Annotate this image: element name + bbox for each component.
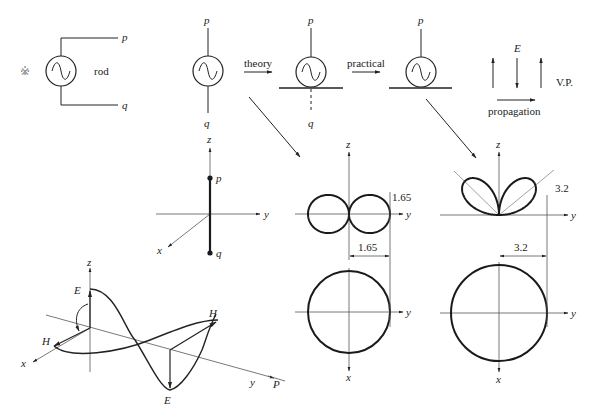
dipole-y-label: y bbox=[263, 208, 269, 220]
practical-vertical-pattern: z y 3.2 3.2 bbox=[440, 138, 576, 266]
practical-diag-right bbox=[499, 170, 554, 215]
theory-to-pattern-arrow bbox=[249, 97, 300, 157]
dipole-terminal-q: q bbox=[204, 117, 210, 129]
sine-wave-icon bbox=[52, 63, 70, 80]
wave-e-top-label: E bbox=[73, 284, 81, 296]
antenna-diagram: ※ p q rod p q theory p q practical p bbox=[0, 0, 599, 420]
em-wave-group: z y P x E H H E bbox=[20, 256, 285, 406]
rod-source-group: ※ p q rod bbox=[20, 31, 128, 111]
dipole-q-label: q bbox=[216, 247, 222, 259]
dipole-p-label: p bbox=[215, 172, 222, 184]
wave-y-label: y bbox=[249, 376, 255, 388]
practical-to-pattern-arrow bbox=[426, 99, 476, 158]
dipole-x-label: x bbox=[156, 244, 162, 256]
dipole-axes-group: z y x p q bbox=[156, 133, 269, 259]
h-field-right-vector bbox=[170, 322, 216, 350]
wave-y-axis bbox=[46, 315, 274, 378]
practical-h-y-label: y bbox=[570, 307, 576, 319]
theory-height-value: 1.65 bbox=[392, 191, 412, 203]
practical-lobe-value: 3.2 bbox=[555, 182, 569, 194]
wave-z-label: z bbox=[86, 256, 92, 268]
wave-e-bottom-label: E bbox=[163, 394, 171, 406]
propagation-label: propagation bbox=[488, 105, 541, 117]
e-field-label: E bbox=[513, 42, 521, 54]
wave-p-label: P bbox=[272, 378, 280, 390]
grounded-terminal-p: p bbox=[417, 14, 424, 26]
sine-wave-icon bbox=[412, 64, 430, 81]
practical-h-x-label: x bbox=[495, 373, 501, 385]
theory-y-label: y bbox=[405, 208, 411, 220]
dipole-terminal-p: p bbox=[203, 14, 210, 26]
vp-label: V.P. bbox=[556, 76, 573, 88]
practical-y-label: y bbox=[570, 209, 576, 221]
wave-h-right-label: H bbox=[208, 307, 218, 319]
theory-h-y-label: y bbox=[405, 306, 411, 318]
dipole-point-p bbox=[207, 175, 212, 180]
wave-h-left-label: H bbox=[41, 335, 51, 347]
vertical-polarization-group: E V.P. propagation bbox=[488, 42, 573, 117]
theory-z-label: z bbox=[345, 138, 351, 150]
theory-h-x-label: x bbox=[345, 371, 351, 383]
dipole-z-label: z bbox=[206, 133, 212, 145]
rod-terminal-q: q bbox=[122, 99, 128, 111]
theory-vertical-pattern: z y 1.65 1.65 bbox=[295, 138, 412, 268]
ground-image-source-group: p q bbox=[279, 14, 343, 129]
image-terminal-p: p bbox=[307, 14, 314, 26]
sine-wave-icon bbox=[199, 63, 217, 80]
rod-label: rod bbox=[94, 65, 109, 77]
dipole-point-q bbox=[207, 250, 212, 255]
practical-horizontal-pattern: y x bbox=[440, 262, 576, 385]
dipole-x-axis bbox=[168, 214, 210, 247]
theory-label: theory bbox=[244, 57, 273, 69]
practical-width-value: 3.2 bbox=[514, 241, 528, 253]
practical-label: practical bbox=[347, 57, 385, 69]
h-field-left-vector bbox=[54, 328, 90, 346]
practical-z-label: z bbox=[495, 138, 501, 150]
rotation-arc-arrow bbox=[76, 304, 88, 331]
grounded-source-group: p bbox=[389, 14, 452, 88]
theory-horizontal-pattern: y x bbox=[295, 268, 411, 383]
sine-wave-icon bbox=[302, 64, 320, 81]
theory-width-value: 1.65 bbox=[358, 241, 378, 253]
dipole-source-group: p q bbox=[193, 14, 223, 129]
rod-wire-bottom bbox=[61, 86, 118, 105]
rod-wire-top bbox=[61, 38, 118, 56]
h-field-wave bbox=[54, 320, 218, 353]
image-terminal-q: q bbox=[308, 117, 314, 129]
wave-x-label: x bbox=[20, 357, 26, 369]
rod-terminal-p: p bbox=[121, 31, 128, 43]
reference-mark-icon: ※ bbox=[20, 64, 30, 78]
